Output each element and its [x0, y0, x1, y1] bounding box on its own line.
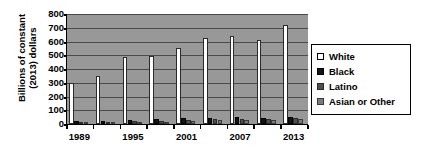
- bar-group: [94, 14, 121, 124]
- bar-white: [176, 48, 181, 124]
- y-tick-label: 0: [30, 119, 64, 129]
- x-tick-mark: [146, 125, 148, 129]
- bar-white: [149, 56, 154, 124]
- legend-swatch-icon: [317, 68, 324, 75]
- bar-group: [174, 14, 201, 124]
- legend-label: Asian or Other: [329, 96, 395, 107]
- legend-swatch-icon: [317, 83, 324, 90]
- x-tick-label: 1989: [59, 131, 99, 142]
- y-tick-label: 100: [30, 105, 64, 115]
- x-tick-mark: [93, 125, 95, 129]
- bar-asian-or-other: [298, 119, 303, 124]
- bar-latino: [79, 122, 84, 124]
- bar-black: [154, 119, 159, 124]
- y-tick-label: 700: [30, 23, 64, 33]
- y-tick-label: 800: [30, 9, 64, 19]
- x-tick-mark: [120, 125, 122, 129]
- plot-area: [66, 14, 308, 125]
- bar-group: [228, 14, 255, 124]
- y-tick-label: 500: [30, 50, 64, 60]
- y-tick-label: 400: [30, 64, 64, 74]
- bar-black: [261, 118, 266, 124]
- bar-latino: [213, 119, 218, 124]
- bar-white: [283, 25, 288, 124]
- bar-white: [257, 40, 262, 124]
- x-tick-label: 2007: [220, 131, 260, 142]
- bar-black: [128, 120, 133, 124]
- legend-label: White: [329, 51, 355, 62]
- bar-group: [254, 14, 281, 124]
- bar-group: [201, 14, 228, 124]
- plot-inner: [67, 14, 308, 124]
- bar-asian-or-other: [191, 121, 196, 124]
- legend-item[interactable]: Asian or Other: [317, 94, 405, 109]
- x-tick-mark: [280, 125, 282, 129]
- bar-asian-or-other: [164, 122, 169, 124]
- legend-swatch-icon: [317, 53, 324, 60]
- legend-swatch-icon: [317, 98, 324, 105]
- bar-white: [69, 83, 74, 124]
- legend: WhiteBlackLatinoAsian or Other: [311, 44, 411, 115]
- bar-latino: [159, 121, 164, 124]
- bar-latino: [240, 119, 245, 124]
- bar-latino: [186, 120, 191, 124]
- bar-asian-or-other: [84, 122, 89, 124]
- bar-latino: [266, 119, 271, 124]
- bar-group: [147, 14, 174, 124]
- x-tick-mark: [173, 125, 175, 129]
- y-tick-label: 300: [30, 78, 64, 88]
- legend-item[interactable]: Black: [317, 64, 405, 79]
- bar-group: [121, 14, 148, 124]
- x-tick-label: 1995: [113, 131, 153, 142]
- bar-latino: [106, 122, 111, 124]
- legend-item[interactable]: Latino: [317, 79, 405, 94]
- x-tick-mark: [66, 125, 68, 129]
- bar-asian-or-other: [111, 122, 116, 124]
- bar-black: [235, 117, 240, 124]
- bar-black: [101, 121, 106, 124]
- bar-asian-or-other: [137, 122, 142, 124]
- x-tick-label: 2013: [274, 131, 314, 142]
- bar-latino: [293, 118, 298, 124]
- x-tick-mark: [307, 125, 309, 129]
- bar-black: [74, 121, 79, 124]
- bar-latino: [132, 121, 137, 124]
- bar-group: [281, 14, 308, 124]
- bar-black: [288, 117, 293, 124]
- y-axis-ticks: 8007006005004003002001000: [24, 14, 64, 124]
- legend-label: Latino: [329, 81, 358, 92]
- legend-label: Black: [329, 66, 354, 77]
- bar-group: [67, 14, 94, 124]
- bar-black: [181, 118, 186, 124]
- bar-chart: Billions of constant (2013) dollars 8007…: [0, 0, 422, 162]
- legend-item[interactable]: White: [317, 49, 405, 64]
- bar-white: [123, 57, 128, 124]
- x-tick-mark: [200, 125, 202, 129]
- x-tick-mark: [227, 125, 229, 129]
- bar-asian-or-other: [271, 120, 276, 124]
- y-tick-label: 600: [30, 37, 64, 47]
- x-tick-mark: [253, 125, 255, 129]
- bar-black: [208, 118, 213, 124]
- x-axis-ticks: 19891995200120072013: [66, 125, 309, 130]
- bar-asian-or-other: [244, 120, 249, 124]
- x-tick-label: 2001: [167, 131, 207, 142]
- bar-white: [230, 36, 235, 124]
- bar-asian-or-other: [218, 120, 223, 124]
- bar-white: [203, 38, 208, 124]
- y-tick-label: 200: [30, 92, 64, 102]
- bar-white: [96, 76, 101, 124]
